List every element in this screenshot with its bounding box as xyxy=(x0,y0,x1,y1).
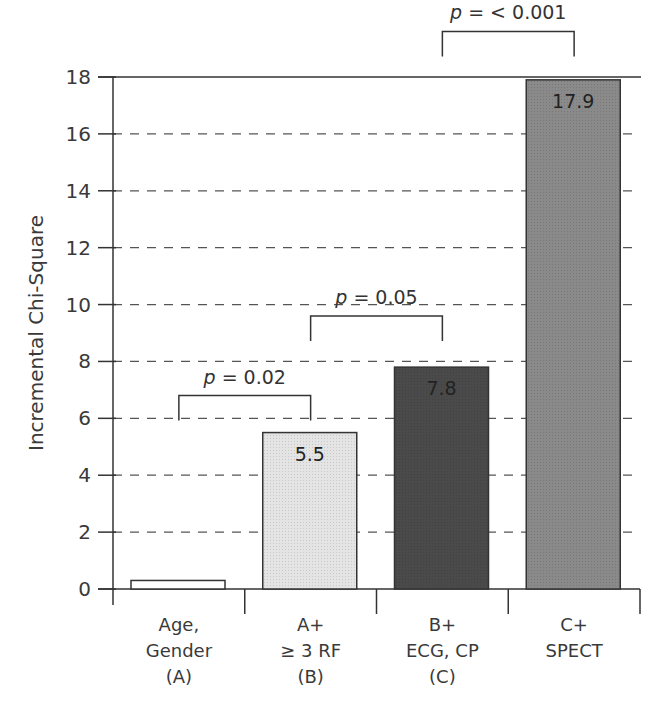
category-labels: Age,Gender(A)A+≥ 3 RF(B)B+ECG, CP(C)C+SP… xyxy=(146,614,604,687)
y-tick-label: 8 xyxy=(78,349,91,373)
x-category-label: ≥ 3 RF xyxy=(280,640,341,661)
y-tick-label: 12 xyxy=(66,236,91,260)
bar-chart: 024681012141618 5.57.817.9 p = 0.02p = 0… xyxy=(0,0,661,716)
y-tick-label: 18 xyxy=(66,65,91,89)
x-category-label: ECG, CP xyxy=(406,640,479,661)
y-tick-label: 10 xyxy=(66,293,91,317)
x-category-label: B+ xyxy=(429,614,456,635)
significance-bracket xyxy=(442,31,574,56)
x-category-label: (B) xyxy=(297,666,323,687)
y-tick-label: 6 xyxy=(78,406,91,430)
bar xyxy=(131,580,225,589)
bar-value-label: 7.8 xyxy=(426,377,456,399)
p-value-label: p = 0.02 xyxy=(203,366,286,388)
x-category-label: C+ xyxy=(560,614,588,635)
y-axis-label: Incremental Chi-Square xyxy=(24,215,48,451)
bar-value-label: 5.5 xyxy=(295,443,325,465)
significance-bracket xyxy=(179,396,311,421)
y-tick-label: 2 xyxy=(78,520,91,544)
y-tick-label: 16 xyxy=(66,122,91,146)
x-category-label: Age, xyxy=(159,614,200,635)
bar xyxy=(526,80,620,589)
bar-value-label: 17.9 xyxy=(552,90,594,112)
p-value-label: p = 0.05 xyxy=(334,286,417,308)
x-category-label: (A) xyxy=(166,666,192,687)
significance-bracket xyxy=(311,316,443,341)
bars: 5.57.817.9 xyxy=(131,80,620,589)
x-category-label: A+ xyxy=(297,614,324,635)
y-tick-label: 4 xyxy=(78,463,91,487)
x-category-label: Gender xyxy=(146,640,213,661)
significance-annotations: p = 0.02p = 0.05p = < 0.001 xyxy=(179,1,574,420)
y-tick-label: 0 xyxy=(78,577,91,601)
x-category-label: SPECT xyxy=(546,640,604,661)
y-tick-label: 14 xyxy=(66,179,91,203)
p-value-label: p = < 0.001 xyxy=(449,1,566,23)
bar xyxy=(395,367,489,589)
x-category-label: (C) xyxy=(429,666,456,687)
